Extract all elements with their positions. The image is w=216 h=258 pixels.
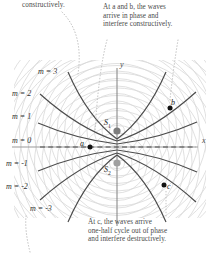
antinodal-line-m-2-left [40, 153, 117, 200]
label-antinodal-m1: m = 1 [12, 112, 31, 121]
point-a-label: a [80, 139, 84, 148]
annotation-top-right: At a and b, the waves arrive in phase an… [103, 3, 207, 29]
label-antinodal-m-1: m = -1 [6, 159, 28, 168]
label-antinodal-m-3: m = -3 [30, 204, 52, 213]
antinodal-line-m-1-right [117, 150, 197, 172]
source-s1-dot [113, 127, 120, 134]
x-axis-label: x [202, 136, 206, 145]
point-a-dot [88, 145, 93, 150]
label-antinodal-m2: m = 2 [12, 89, 31, 98]
antinodal-line-m3-left [68, 72, 117, 139]
figure-canvas: constructively. At a and b, the waves ar… [0, 0, 216, 258]
antinodal-line-m3-right [117, 72, 166, 139]
leader-topright-to-point-b [170, 40, 178, 100]
label-antinodal-m-2: m = -2 [6, 182, 28, 191]
source-s2-subscript: 2 [108, 170, 111, 176]
label-antinodal-m3: m = 3 [38, 67, 57, 76]
point-c-label: c [167, 182, 171, 191]
source-s2-label: S2 [104, 165, 111, 176]
source-s1-subscript: 1 [108, 123, 111, 129]
antinodal-line-m1-right [117, 122, 197, 144]
antinodal-line-m2-right [117, 92, 196, 141]
point-b-label: b [171, 98, 175, 107]
leader-bottom-to-m-minus-3 [26, 216, 30, 252]
antinodal-line-m-2-right [117, 153, 196, 202]
annotation-bottom: At c, the waves arrive one-half cycle ou… [88, 218, 210, 244]
annotation-top-left: constructively. [22, 1, 102, 10]
label-antinodal-m0: m = 0 [12, 136, 31, 145]
antinodal-line-m-3-right [117, 155, 166, 222]
y-axis-label: y [120, 60, 124, 69]
source-s2-dot [113, 159, 120, 166]
source-s1-label: S1 [104, 118, 111, 129]
point-c-dot [162, 183, 167, 188]
leader-top-left-to-m3 [62, 12, 79, 74]
